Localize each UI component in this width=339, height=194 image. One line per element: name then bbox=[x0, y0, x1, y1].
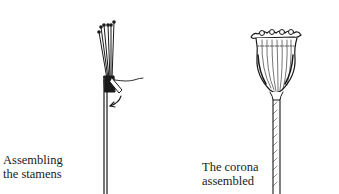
caption-corona-line2: assembled bbox=[202, 174, 259, 188]
caption-stamens-line2: the stamens bbox=[3, 167, 63, 181]
caption-corona: The corona assembled bbox=[202, 160, 259, 188]
caption-stamens-line1: Assembling bbox=[3, 153, 63, 167]
caption-stamens: Assembling the stamens bbox=[3, 153, 63, 181]
caption-corona-line1: The corona bbox=[202, 160, 259, 174]
